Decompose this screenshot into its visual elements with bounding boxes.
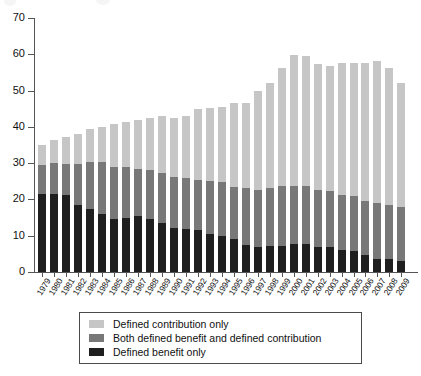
bar-segment-both-db-and-dc [218,182,226,236]
bar-segment-defined-contribution-only [146,118,154,170]
bar-segment-both-db-and-dc [146,170,154,219]
bar-segment-defined-benefit-only [290,244,298,272]
bar-segment-both-db-and-dc [290,186,298,244]
bar-segment-defined-contribution-only [158,116,166,173]
y-axis-tick-label: 0 [19,265,25,277]
bar-segment-defined-contribution-only [290,55,298,186]
bar-segment-both-db-and-dc [254,190,262,248]
bar-segment-both-db-and-dc [134,169,142,216]
bar-segment-defined-benefit-only [86,209,94,272]
legend-label: Defined contribution only [113,318,229,330]
bar-segment-defined-benefit-only [361,255,369,272]
bar-segment-defined-contribution-only [302,56,310,186]
bar-segment-defined-benefit-only [170,228,178,272]
bar-segment-defined-contribution-only [326,66,334,192]
bar-segment-both-db-and-dc [278,186,286,245]
bar-segment-defined-contribution-only [278,68,286,187]
y-axis-tick-label: 20 [13,192,25,204]
legend-swatch-both-db-and-dc [89,334,104,342]
scan-artifact [96,0,110,5]
bar-segment-both-db-and-dc [194,180,202,230]
bar-segment-defined-contribution-only [134,120,142,169]
legend-label: Both defined benefit and defined contrib… [113,332,321,344]
legend-item-defined-contribution-only: Defined contribution only [89,317,229,331]
bar-segment-defined-benefit-only [314,247,322,272]
bar-segment-both-db-and-dc [397,207,405,260]
bar-segment-both-db-and-dc [206,181,214,235]
bar-segment-both-db-and-dc [338,195,346,251]
bar-segment-both-db-and-dc [98,162,106,214]
bar-segment-defined-contribution-only [373,61,381,203]
bar-segment-defined-contribution-only [50,140,58,162]
bar-segment-both-db-and-dc [158,173,166,223]
bar-segment-defined-contribution-only [170,118,178,177]
bar-segment-defined-benefit-only [146,219,154,272]
bar-segment-both-db-and-dc [170,177,178,228]
bar-segment-defined-benefit-only [98,214,106,272]
legend-item-defined-benefit-only: Defined benefit only [89,345,206,359]
y-axis-tick-label: 30 [13,156,25,168]
bar-segment-both-db-and-dc [266,188,274,246]
y-axis-tick-label: 50 [13,84,25,96]
bar-segment-defined-contribution-only [86,129,94,162]
bar-segment-both-db-and-dc [314,190,322,247]
bar-segment-both-db-and-dc [122,167,130,217]
bar-segment-defined-contribution-only [194,109,202,180]
bar-segment-both-db-and-dc [350,196,358,250]
bar-segment-defined-benefit-only [385,259,393,272]
bar-segment-defined-benefit-only [182,229,190,272]
y-axis-tick-label: 40 [13,120,25,132]
bar-segment-defined-benefit-only [62,195,70,272]
bar-segment-both-db-and-dc [110,167,118,219]
bar-segment-defined-benefit-only [242,245,250,272]
bar-segment-defined-contribution-only [350,63,358,196]
y-axis-tick: 0 [28,272,34,273]
stacked-bar-chart: 010203040506070 197919801981198219831984… [0,0,421,376]
bar-segment-defined-benefit-only [254,247,262,272]
bar-segment-defined-contribution-only [397,83,405,208]
bar-segment-defined-contribution-only [182,116,190,178]
x-axis-labels: 1979198019811982198319841985198619871988… [34,277,418,317]
bar-segment-defined-contribution-only [314,64,322,190]
bar-segment-defined-contribution-only [242,103,250,188]
bar-segment-both-db-and-dc [38,165,46,194]
bar-segment-defined-contribution-only [254,91,262,190]
bar-segment-defined-contribution-only [38,145,46,166]
bar-segment-defined-benefit-only [350,251,358,272]
chart-legend: Defined contribution only Both defined b… [79,312,362,364]
bar-segment-defined-benefit-only [278,246,286,272]
bar-segment-defined-benefit-only [158,223,166,272]
bar-segment-defined-contribution-only [98,127,106,163]
bar-segment-both-db-and-dc [62,164,70,195]
bar-segment-defined-contribution-only [206,108,214,180]
bar-segment-defined-contribution-only [218,107,226,183]
bar-segment-defined-benefit-only [50,194,58,272]
bar-segment-defined-contribution-only [385,68,393,206]
bar-segment-both-db-and-dc [86,162,94,209]
bar-segment-both-db-and-dc [74,164,82,205]
scan-artifact [4,0,16,6]
bar-segment-defined-contribution-only [361,63,369,201]
bar-segment-both-db-and-dc [373,203,381,259]
bar-segment-defined-contribution-only [266,83,274,188]
bar-segment-both-db-and-dc [361,201,369,255]
y-axis-tick-label: 70 [13,11,25,23]
bar-segment-defined-benefit-only [110,219,118,272]
legend-item-both-db-and-dc: Both defined benefit and defined contrib… [89,331,321,345]
bar-segment-defined-benefit-only [122,218,130,272]
bar-segment-defined-benefit-only [373,259,381,272]
bar-segment-defined-contribution-only [122,122,130,167]
x-axis-line [34,272,418,273]
bar-segment-both-db-and-dc [326,191,334,247]
bar-segment-both-db-and-dc [302,186,310,244]
bar-segment-defined-benefit-only [134,216,142,272]
bar-segment-defined-benefit-only [338,250,346,272]
y-axis-tick-label: 10 [13,229,25,241]
bar-segment-defined-contribution-only [230,103,238,186]
y-axis-tick-mark [28,272,34,273]
bar-segment-defined-contribution-only [338,63,346,195]
bar-segment-defined-contribution-only [62,137,70,164]
bar-segment-defined-contribution-only [74,134,82,164]
bar-segment-defined-benefit-only [38,194,46,272]
bar-segment-defined-benefit-only [326,247,334,272]
